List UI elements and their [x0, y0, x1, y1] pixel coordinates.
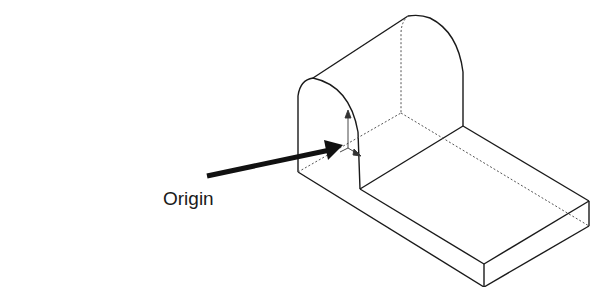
hidden-base-back-edge — [298, 113, 401, 172]
inner-step-edge — [360, 189, 484, 264]
front-arch-edge — [298, 78, 360, 189]
plate-front-bottom-edge — [484, 226, 589, 287]
plate-right-edge — [463, 126, 589, 201]
plate-front-top-edge — [484, 201, 589, 264]
step-back-edge — [360, 126, 463, 189]
back-arch-edge — [408, 15, 463, 126]
origin-label: Origin — [163, 188, 214, 210]
hidden-base-long-edge — [401, 113, 589, 226]
top-edge — [313, 16, 408, 78]
part-isometric-drawing — [0, 0, 602, 287]
hidden-back-arch — [401, 16, 408, 113]
base-left-bottom-edge — [298, 172, 484, 287]
